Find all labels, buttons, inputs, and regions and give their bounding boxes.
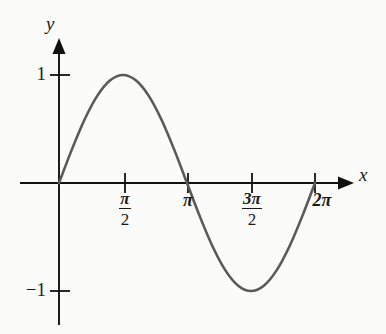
x-axis-label: x [359, 165, 367, 184]
two-pi-symbol: 2π [313, 190, 332, 210]
pi-symbol: π [183, 190, 193, 210]
y-axis-label: y [46, 14, 54, 33]
y-axis-arrowhead-icon [53, 38, 66, 54]
fraction-numerator: 3π [241, 190, 263, 208]
x-tick-label-pi-over-2: π 2 [106, 190, 144, 229]
fraction-bar [119, 208, 130, 209]
sine-curve-figure: y x 1 −1 π 2 π 3π 2 2π [0, 0, 386, 334]
y-tick-label-neg1: −1 [10, 280, 46, 299]
fraction-3pi-over-2: 3π 2 [241, 190, 263, 229]
y-tick-label-1: 1 [22, 64, 46, 83]
x-tick-label-2pi: 2π [299, 191, 345, 209]
plot-canvas [0, 0, 386, 334]
x-axis-arrowhead-icon [338, 177, 354, 190]
x-tick-label-pi: π [170, 191, 206, 209]
fraction-denominator: 2 [241, 210, 263, 228]
fraction-bar [242, 208, 262, 209]
fraction-denominator: 2 [118, 210, 131, 228]
x-tick-label-3pi-over-2: 3π 2 [230, 190, 274, 229]
fraction-numerator: π [118, 190, 131, 208]
fraction-pi-over-2: π 2 [118, 190, 131, 229]
